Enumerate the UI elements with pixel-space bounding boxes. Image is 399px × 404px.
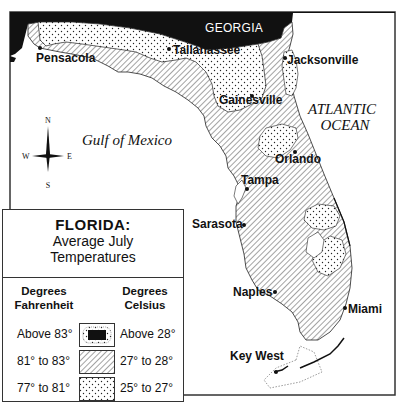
legend-row-77-81: 77° to 81° 25° to 27° [3,376,183,403]
legend-fahrenheit: Above 83° [17,327,73,341]
water-label-atlantic-2: OCEAN [320,117,370,133]
legend-title: FLORIDA: [3,216,183,233]
legend: FLORIDA: Average July Temperatures Degre… [2,209,184,402]
state-label-georgia: GEORGIA [205,21,263,35]
compass-s: S [46,181,50,190]
city-naples: Naples [233,285,277,299]
city-gainesville: Gainesville [219,93,283,107]
water-label-gulf: Gulf of Mexico [82,132,172,148]
city-label: Pensacola [36,51,96,65]
city-label: Sarasota [192,217,243,231]
city-label: Jacksonville [287,53,359,67]
legend-header-celsius: Degrees Celsius [115,284,175,312]
legend-subtitle-2: Temperatures [3,249,183,265]
swatch-solid-black [79,323,115,347]
city-jacksonville: Jacksonville [283,53,359,67]
legend-header-f-1: Degrees [13,284,75,298]
swatch-diagonal-hatch [79,350,115,374]
legend-headers: Degrees Fahrenheit Degrees Celsius [3,278,183,322]
legend-header-c-1: Degrees [115,284,175,298]
legend-fahrenheit: 77° to 81° [17,381,70,395]
city-label: Key West [230,349,284,363]
city-label: Orlando [275,152,321,166]
city-sarasota: Sarasota [192,217,246,231]
compass-e: E [67,152,72,161]
legend-row-above-83: Above 83° Above 28° [3,322,183,349]
legend-title-block: FLORIDA: Average July Temperatures [3,210,183,278]
swatch-dotted [79,377,115,401]
water-label-atlantic-1: ATLANTIC [307,101,377,117]
city-miami: Miami [343,302,382,316]
legend-celsius: 27° to 28° [120,354,173,368]
legend-fahrenheit: 81° to 83° [17,354,70,368]
compass-w: W [22,152,30,161]
legend-header-fahrenheit: Degrees Fahrenheit [13,284,75,312]
compass-n: N [45,116,51,125]
city-label: Naples [233,285,273,299]
legend-row-81-83: 81° to 83° 27° to 28° [3,349,183,376]
city-orlando: Orlando [275,150,321,166]
legend-subtitle-1: Average July [3,233,183,249]
city-label: Tallahassee [173,43,240,57]
city-tallahassee: Tallahassee [167,43,240,57]
city-label: Gainesville [219,93,283,107]
city-label: Tampa [241,173,279,187]
legend-celsius: Above 28° [120,327,176,341]
legend-celsius: 25° to 27° [120,381,173,395]
legend-header-f-2: Fahrenheit [13,298,75,312]
city-label: Miami [348,302,382,316]
legend-header-c-2: Celsius [115,298,175,312]
